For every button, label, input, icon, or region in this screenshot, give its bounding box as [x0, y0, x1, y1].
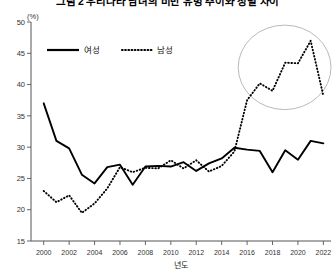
y-tick-label: 35: [17, 112, 25, 121]
y-tick-label: 30: [17, 143, 25, 152]
x-tick-label: 2000: [36, 249, 52, 256]
chart-container: 그림 2 우리나라 남녀의 비만 유병 추이와 성별 차이 (%) 152025…: [0, 0, 335, 275]
x-tick-label: 2012: [188, 249, 204, 256]
x-axis-ticks: 2000200220042006200820102012201420162018…: [36, 241, 331, 256]
x-tick-label: 2004: [87, 249, 103, 256]
x-tick-label: 2022: [316, 249, 332, 256]
x-tick-label: 2006: [112, 249, 128, 256]
x-tick-label: 2016: [239, 249, 255, 256]
y-tick-label: 25: [17, 174, 25, 183]
x-tick-label: 2014: [214, 249, 230, 256]
x-tick-label: 2020: [290, 249, 306, 256]
series-line-male: [44, 41, 324, 213]
x-tick-label: 2010: [163, 249, 179, 256]
highlight-ellipse: [238, 25, 331, 109]
legend: 여성 남성: [47, 45, 173, 55]
x-tick-label: 2018: [265, 249, 281, 256]
series-line-female: [44, 103, 324, 184]
y-axis-ticks: 1520253035404550: [17, 18, 31, 246]
x-axis-title: 년도: [174, 260, 188, 270]
y-tick-label: 45: [17, 49, 25, 58]
y-tick-label: 15: [17, 237, 25, 246]
legend-label-female: 여성: [84, 45, 100, 55]
y-tick-label: 40: [17, 80, 25, 89]
y-tick-label: 50: [17, 18, 25, 27]
x-tick-label: 2002: [61, 249, 77, 256]
chart-svg: 1520253035404550 20002002200420062008201…: [0, 0, 335, 275]
y-tick-label: 20: [17, 205, 25, 214]
x-tick-label: 2008: [138, 249, 154, 256]
legend-label-male: 남성: [157, 45, 173, 55]
